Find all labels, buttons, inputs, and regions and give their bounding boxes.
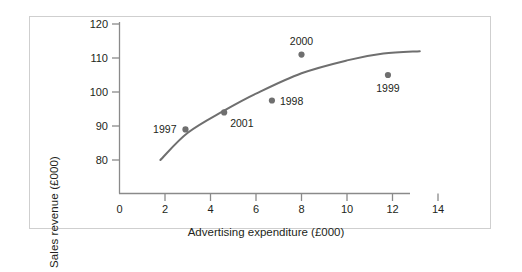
y-tick-label: 80	[78, 154, 108, 166]
x-tick-label: 2	[162, 203, 168, 215]
y-tick-label: 110	[78, 52, 108, 64]
x-axis-ticks	[165, 194, 438, 202]
data-point	[221, 109, 227, 115]
y-tick-label: 100	[78, 86, 108, 98]
data-points	[182, 52, 391, 133]
data-point-label: 1998	[280, 95, 303, 107]
x-tick-label: 6	[253, 203, 259, 215]
x-tick-label: 12	[386, 203, 398, 215]
x-tick-label: 14	[432, 203, 444, 215]
data-point	[298, 52, 304, 58]
y-tick-label: 120	[78, 18, 108, 30]
y-axis-ticks	[112, 24, 120, 160]
x-tick-label: 0	[116, 203, 122, 215]
data-point-label: 2000	[290, 35, 313, 47]
x-tick-label: 10	[341, 203, 353, 215]
data-point	[385, 72, 391, 78]
y-tick-label: 90	[78, 120, 108, 132]
x-tick-label: 4	[207, 203, 213, 215]
data-point-label: 1997	[153, 123, 176, 135]
data-point	[182, 126, 188, 132]
x-tick-label: 8	[298, 203, 304, 215]
data-point-label: 1999	[376, 82, 399, 94]
data-point	[269, 97, 275, 103]
data-point-label: 2001	[230, 117, 253, 129]
